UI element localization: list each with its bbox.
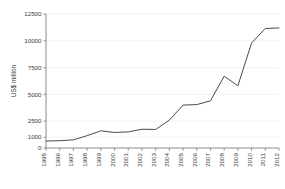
x-tick-label: 2006 <box>191 152 198 166</box>
x-tick-label: 1997 <box>67 152 74 166</box>
x-tick-label: 2007 <box>204 152 211 166</box>
y-tick-label: 5000 <box>28 91 42 98</box>
x-tick-label: 2002 <box>136 152 143 166</box>
x-tick-label: 2001 <box>122 152 129 166</box>
chart-figure: 010002500500075001000012500 199519961997… <box>0 0 285 189</box>
x-tick-label: 1999 <box>95 152 102 166</box>
line-chart: 010002500500075001000012500 199519961997… <box>0 0 285 189</box>
y-tick-label: 0 <box>38 144 42 151</box>
y-tick-label: 12500 <box>24 10 42 17</box>
y-tick-label: 2500 <box>28 117 42 124</box>
x-tick-label: 2003 <box>150 152 157 166</box>
x-tick-label: 2011 <box>259 152 266 166</box>
x-tick-label: 2008 <box>218 152 225 166</box>
x-tick-label: 2004 <box>163 152 170 166</box>
x-tick-label: 1998 <box>81 152 88 166</box>
y-axis-label: US$ million <box>10 64 17 97</box>
y-tick-label: 1000 <box>28 133 42 140</box>
y-tick-label: 10000 <box>24 37 42 44</box>
x-tick-label: 1995 <box>40 152 47 166</box>
x-tick-label: 2010 <box>246 152 253 166</box>
y-axis-title-group: US$ million <box>10 64 17 97</box>
x-tick-label: 2005 <box>177 152 184 166</box>
y-tick-label: 7500 <box>28 64 42 71</box>
x-tick-label: 2009 <box>232 152 239 166</box>
x-tick-label: 2000 <box>109 152 116 166</box>
x-tick-label: 1996 <box>54 152 61 166</box>
x-tick-label: 2012 <box>273 152 280 166</box>
